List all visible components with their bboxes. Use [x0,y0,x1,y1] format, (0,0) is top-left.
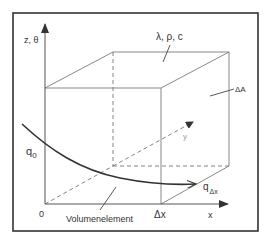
volume-element-leader-line [100,187,116,210]
flux-out-symbol: q [203,181,209,192]
flux-out-subscript: Δx [210,188,219,195]
delta-x-label: Δx [154,209,166,220]
area-label: ΔA [235,85,246,94]
volume-element-label: Volumenelement [66,214,134,224]
heat-flux-curve [22,124,196,184]
bottom-left-hidden-diagonal [45,166,113,204]
area-leader-line [210,89,234,96]
bottom-right-diagonal-edge [161,166,229,204]
flux-in-label: q0 [26,145,37,160]
origin-label: 0 [39,209,44,219]
flux-in-subscript: 0 [32,151,37,160]
volume-element-diagram: z, θ λ, ρ, c ΔA q0 qΔx 0 Volumenelement … [0,0,264,240]
flux-out-label: qΔx [203,181,218,195]
properties-label: λ, ρ, c [156,31,183,42]
y-axis [113,122,193,166]
x-axis-label: x [208,210,213,220]
properties-leader-line [163,45,170,62]
y-axis-label: y [183,132,187,141]
z-axis-label: z, θ [24,35,39,45]
top-left-diagonal-edge [45,52,113,88]
top-right-diagonal-edge [161,52,229,88]
diagram-frame [13,13,258,231]
